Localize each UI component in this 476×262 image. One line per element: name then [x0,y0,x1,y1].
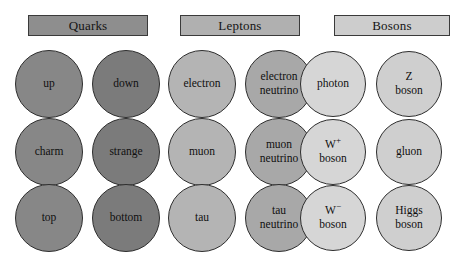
particle-label-line: tau [272,204,286,218]
particle-label-line: electron [183,77,220,91]
particle-electron: electron [168,50,236,118]
particle-label-line: photon [317,77,349,91]
group-header-label: Quarks [69,19,108,32]
particle-label-line: boson [395,84,422,98]
group-header-label: Bosons [372,19,412,32]
particle-label-line: top [42,211,57,225]
particle-label-line: muon [189,145,215,159]
particle-label-line: boson [319,152,346,166]
particle-label-line: muon [266,138,292,152]
particle-strange: strange [92,118,160,186]
particle-label-line: Higgs [395,204,422,218]
particle-w-minus-boson: W−boson [300,185,366,251]
group-header-label: Leptons [218,19,261,32]
particle-label-line: gluon [396,145,422,159]
particle-label-line: W+ [325,138,341,152]
particle-charm: charm [15,118,83,186]
particle-label-line: neutrino [260,218,298,232]
particle-label-line: W− [325,204,341,218]
particle-label-line: up [43,77,55,91]
particle-tau: tau [168,184,236,252]
particle-label-line: down [113,77,139,91]
particle-higgs-boson: Higgsboson [376,185,442,251]
particle-label-line: Z [405,70,412,84]
group-header-quarks: Quarks [28,15,148,36]
particle-muon: muon [168,118,236,186]
particle-label-line: neutrino [260,84,298,98]
particle-z-boson: Zboson [376,51,442,117]
particle-top: top [15,184,83,252]
particle-photon: photon [300,51,366,117]
group-header-leptons: Leptons [180,15,300,36]
particle-down: down [92,50,160,118]
particle-label-line: boson [395,218,422,232]
particle-label-line: charm [35,145,64,159]
particle-bottom: bottom [92,184,160,252]
particle-label-line: neutrino [260,152,298,166]
particle-w-plus-boson: W+boson [300,119,366,185]
particle-label-line: electron [260,70,297,84]
particle-gluon: gluon [376,119,442,185]
particle-chart: QuarksupdowncharmstrangetopbottomLeptons… [0,0,476,262]
particle-label-line: strange [109,145,142,159]
particle-label-line: boson [319,218,346,232]
particle-label-line: bottom [110,211,143,225]
particle-up: up [15,50,83,118]
particle-label-line: tau [195,211,209,225]
group-header-bosons: Bosons [334,15,450,36]
